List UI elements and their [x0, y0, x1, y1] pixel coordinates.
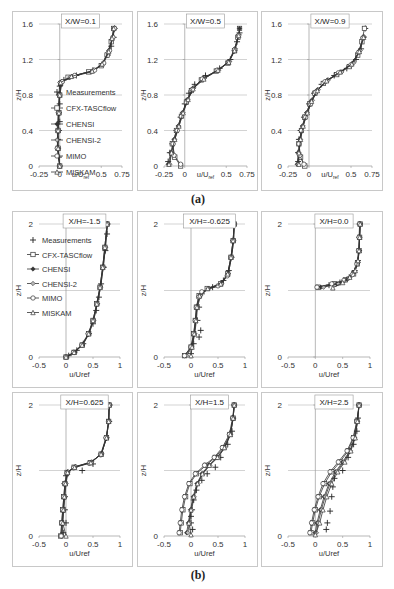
y-tick-label: 1.2 [271, 56, 283, 65]
series-measurements [60, 402, 112, 536]
chart-title: X/W=0.9 [311, 14, 349, 28]
y-tick-label: 2 [278, 401, 283, 410]
x-tick-label: 0 [183, 170, 188, 179]
series-miskam [56, 26, 116, 168]
x-axis-label: u/Uref [194, 370, 215, 379]
x-tick-label: 0 [64, 540, 69, 549]
chart-svg: -0.500.5102z/Hu/UrefX/H=1.5 [138, 393, 257, 566]
series-measurements [188, 221, 237, 357]
series-cfx-tascflow [170, 26, 242, 168]
y-tick-label: 1.2 [147, 56, 159, 65]
x-tick-label: -0.25 [30, 170, 49, 179]
series-miskam [167, 33, 241, 166]
x-tick-label: 0.75 [239, 170, 255, 179]
chart-svg: -0.500.5102z/Hu/UrefX/H=-1.5Measurements… [13, 212, 132, 387]
svg-text:X/W=0.9: X/W=0.9 [315, 17, 346, 26]
x-axis-label: u/Uref [319, 549, 340, 558]
x-tick-label: 0 [313, 361, 318, 370]
x-axis-label: u/Uref [319, 370, 340, 379]
x-tick-label: 0.5 [87, 361, 99, 370]
chart-svg: -0.2500.50.7500.40.81.21.6z/Hu/UrefX/W=0… [262, 12, 382, 190]
series-chensi-2 [184, 222, 236, 358]
x-tick-label: 0.5 [212, 540, 224, 549]
series-mimo [315, 222, 362, 290]
chart-title: X/H=-0.625 [184, 214, 236, 228]
y-tick-label: 0 [154, 532, 159, 541]
legend-entry: CFX-TASCflow [42, 251, 93, 260]
y-tick-label: 1.6 [147, 20, 159, 29]
x-tick-label: 0 [307, 170, 312, 179]
series-chensi-2 [168, 32, 241, 166]
y-tick-label: 1.6 [22, 20, 34, 29]
legend-entry: CHENSI-2 [66, 136, 101, 145]
legend-entry: Measurements [66, 88, 116, 97]
chart-panel-xh-1.5: -0.500.5102z/Hu/UrefX/H=1.5 [137, 392, 258, 567]
x-tick-label: 0.5 [337, 361, 349, 370]
chart-legend: MeasurementsCFX-TASCflowCHENSICHENSI-2MI… [27, 236, 93, 318]
x-tick-label: -0.5 [157, 540, 171, 549]
chart-title: X/H=0.0 [315, 214, 353, 228]
x-tick-label: 1 [118, 540, 123, 549]
y-axis-label: z/H [263, 285, 272, 296]
x-tick-label: -0.5 [32, 540, 46, 549]
y-tick-label: 0 [154, 162, 159, 171]
y-tick-label: 1.2 [22, 56, 34, 65]
series-cfx-tascflow [309, 403, 362, 535]
y-axis-label: z/H [139, 89, 148, 100]
x-tick-label: -0.5 [281, 361, 295, 370]
x-axis-label: u/Uref [194, 549, 215, 558]
caption-b: (b) [178, 568, 218, 583]
y-tick-label: 0 [29, 353, 34, 362]
y-tick-label: 0.4 [147, 127, 159, 136]
x-tick-label: 1 [368, 540, 373, 549]
x-axis-label: u/Uref [321, 170, 339, 180]
x-tick-label: -0.5 [32, 361, 46, 370]
legend-entry: CFX-TASCflow [66, 104, 117, 113]
chart-panel-xh-0.625: -0.500.5102z/Hu/UrefX/H=0.625 [12, 392, 133, 567]
chart-svg: -0.2500.50.7500.40.81.21.6z/Hu/UrefX/W=0… [138, 12, 257, 190]
series-measurements [165, 30, 242, 165]
series-mimo [171, 33, 241, 166]
y-axis-label: z/H [263, 89, 272, 100]
x-tick-label: 0.5 [345, 170, 357, 179]
caption-a: (a) [178, 192, 218, 207]
chart-panel-xh-neg0.625: -0.500.5102z/Hu/UrefX/H=-0.625 [137, 211, 258, 388]
chart-panel-xh-neg1.5: -0.500.5102z/Hu/UrefX/H=-1.5Measurements… [12, 211, 133, 388]
x-tick-label: 0.75 [114, 170, 130, 179]
y-tick-label: 2 [29, 401, 34, 410]
x-tick-label: 1 [368, 361, 373, 370]
legend-entry: MIMO [66, 152, 87, 161]
legend-entry: CHENSI [42, 265, 70, 274]
series-chensi-2 [186, 403, 237, 535]
chart-svg: -0.500.5102z/Hu/UrefX/H=0.625 [13, 393, 132, 566]
chart-svg: -0.500.5102z/Hu/UrefX/H=2.5 [262, 393, 382, 566]
chart-svg: -0.500.5102z/Hu/UrefX/H=-0.625 [138, 212, 257, 387]
y-tick-label: 2 [29, 220, 34, 229]
chart-title: X/W=0.5 [186, 14, 224, 28]
x-tick-label: -0.5 [281, 540, 295, 549]
x-tick-label: 0.5 [221, 170, 233, 179]
chart-panel-xw-0.1: -0.2500.50.7500.40.81.21.6z/Hu/UrefX/W=0… [12, 11, 133, 191]
series-cfx-tascflow [297, 26, 367, 168]
legend-entry: MISKAM [42, 309, 72, 318]
svg-text:X/H=0.625: X/H=0.625 [65, 398, 104, 407]
legend-entry: Measurements [42, 236, 92, 245]
x-tick-label: 0 [189, 361, 194, 370]
x-tick-label: 1 [243, 540, 248, 549]
y-axis-label: z/H [14, 465, 23, 476]
y-axis-label: z/H [14, 285, 23, 296]
chart-title: X/H=-1.5 [63, 214, 106, 228]
x-tick-label: 0.5 [212, 361, 224, 370]
legend-entry: CHENSI-2 [42, 280, 77, 289]
x-tick-label: 0.5 [96, 170, 108, 179]
y-tick-label: 0 [278, 353, 283, 362]
svg-text:X/H=0.0: X/H=0.0 [319, 217, 349, 226]
svg-text:X/W=0.5: X/W=0.5 [190, 17, 221, 26]
series-measurements [188, 402, 237, 532]
x-axis-label: u/Uref [69, 549, 90, 558]
series-cfx-tascflow [56, 26, 116, 168]
y-tick-label: 0 [278, 532, 283, 541]
y-tick-label: 2 [154, 220, 159, 229]
y-tick-label: 0.8 [147, 91, 159, 100]
x-axis-label: u/Uref [197, 170, 215, 180]
